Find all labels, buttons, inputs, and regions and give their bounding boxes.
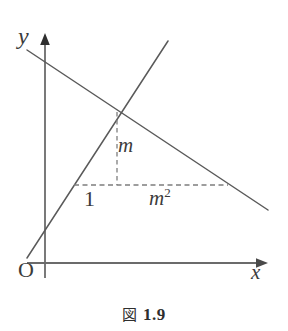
x-axis-label: x <box>251 262 260 283</box>
x-axis <box>27 258 268 268</box>
segment-label-m-squared: m2 <box>149 188 171 209</box>
y-axis-label: y <box>18 24 29 48</box>
figure-caption-number: 1.9 <box>143 305 166 324</box>
descending-line <box>27 50 268 210</box>
figure-container: y x O m 1 m2 図1.9 <box>0 0 288 331</box>
segment-label-m: m <box>118 135 133 156</box>
figure-caption-symbol: 図 <box>122 306 138 324</box>
ascending-line <box>27 41 168 258</box>
segment-label-one: 1 <box>84 188 95 210</box>
segment-label-m-squared-exponent: 2 <box>164 185 171 200</box>
figure-drawing-canvas <box>0 0 288 331</box>
y-axis <box>40 33 50 278</box>
segment-label-m-squared-base: m <box>149 186 164 210</box>
origin-label: O <box>18 259 34 281</box>
figure-caption: 図1.9 <box>0 303 288 325</box>
y-axis-arrowhead-icon <box>40 33 50 45</box>
